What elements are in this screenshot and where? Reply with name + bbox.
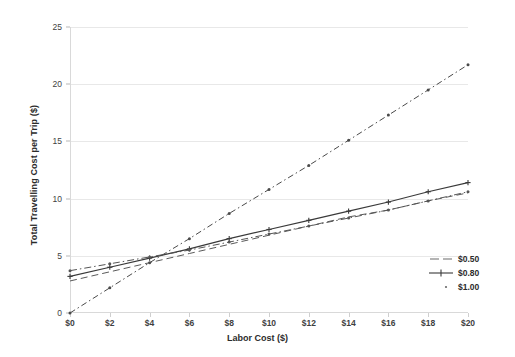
series-point-marker [307,164,310,167]
legend-swatch-dashed-icon [428,253,454,265]
series-point-marker [467,190,470,193]
series-point-marker [347,139,350,142]
legend-label: $0.80 [458,268,479,278]
series-point-marker [268,188,271,191]
legend-swatch-dotted-icon [428,281,454,293]
series-point-marker [386,199,391,204]
series-point-marker [69,312,72,315]
series-point-marker [465,180,470,185]
series-point-marker [426,189,431,194]
series-point-marker [227,236,232,241]
chart-container: Total Travelling Cost per Trip ($) 25 20… [0,0,515,357]
series-point-marker [188,249,191,252]
data-series-layer [0,0,515,357]
series-point-marker [188,237,191,240]
series-point-marker [268,233,271,236]
series-point-marker [307,225,310,228]
series-line [70,193,468,281]
series-point-marker [427,199,430,202]
legend-item-100[interactable]: $1.00 [428,280,479,294]
series-point-marker [69,269,72,272]
series-point-marker [387,114,390,117]
series-point-marker [228,212,231,215]
series-point-marker [108,286,111,289]
legend-label: $1.00 [458,282,479,292]
series-point-marker [67,274,72,279]
series-point-marker [347,217,350,220]
legend-item-080[interactable]: $0.80 [428,266,479,280]
chart-legend: $0.50 $0.80 $1.00 [428,252,479,294]
legend-label: $0.50 [458,254,479,264]
series-point-marker [346,209,351,214]
series-point-marker [266,227,271,232]
series-point-marker [108,262,111,265]
legend-item-050[interactable]: $0.50 [428,252,479,266]
legend-swatch-solid-marker-icon [428,267,454,279]
series-point-marker [107,265,112,270]
series-point-marker [148,261,151,264]
series-point-marker [228,241,231,244]
series-point-marker [427,88,430,91]
series-point-marker [148,255,151,258]
series-point-marker [467,63,470,66]
series-point-marker [387,209,390,212]
series-point-marker [306,218,311,223]
